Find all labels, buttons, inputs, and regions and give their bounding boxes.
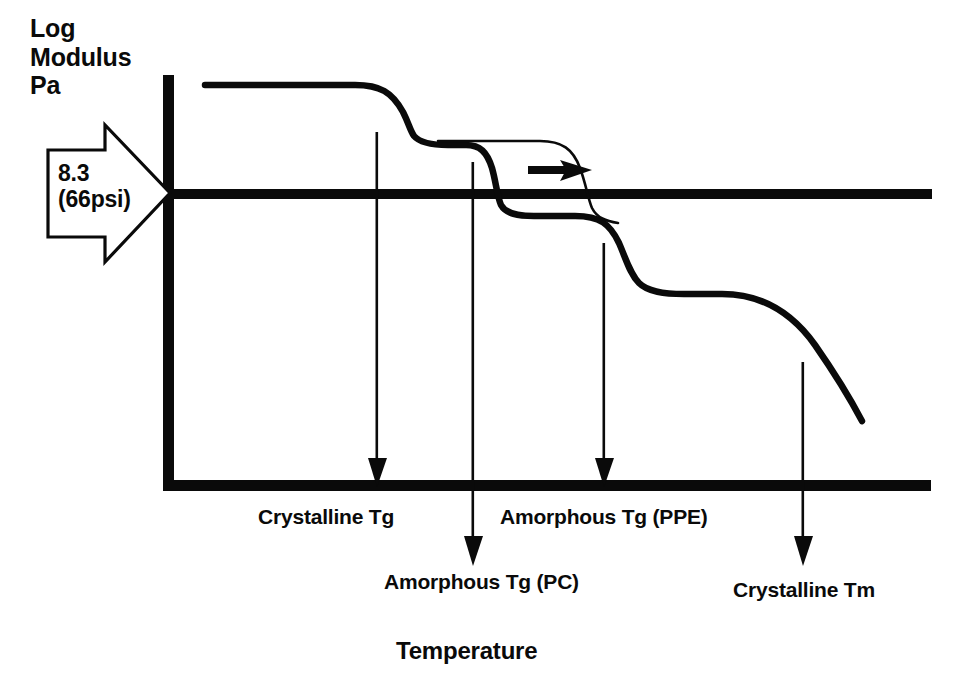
- annotation-label-crystalline-tg: Crystalline Tg: [258, 505, 394, 529]
- axes-group: [163, 75, 931, 491]
- annotation-label-amorphous-tg-pc: Amorphous Tg (PC): [384, 570, 579, 594]
- x-axis-title: Temperature: [396, 637, 537, 664]
- callout-value-label: 8.3 (66psi): [58, 160, 131, 212]
- pointer-arrow-crystalline-tg: [368, 132, 387, 487]
- annotation-label-crystalline-tm: Crystalline Tm: [733, 578, 875, 602]
- pointer-arrow-amorphous-tg-pc: [464, 162, 483, 566]
- reference-line-8-3: [163, 189, 932, 199]
- y-axis-line: [163, 75, 174, 490]
- figure-canvas: Log Modulus Pa 8.3 (66psi) Crystalline T…: [0, 0, 959, 689]
- annotation-label-amorphous-tg-ppe: Amorphous Tg (PPE): [500, 505, 708, 529]
- y-axis-title: Log Modulus Pa: [30, 14, 131, 100]
- modulus-curve-shifted: [438, 141, 618, 223]
- modulus-curve-main: [205, 85, 862, 421]
- x-axis-line: [163, 480, 931, 491]
- pointer-arrow-amorphous-tg-ppe: [595, 243, 614, 487]
- pointer-arrow-crystalline-tm: [794, 362, 813, 566]
